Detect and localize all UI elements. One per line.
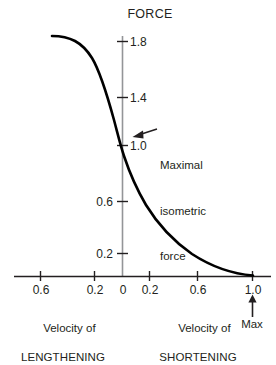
caption-lengthening-line1: Velocity of (43, 322, 95, 334)
x-axis-caption-shortening: Velocity of SHORTENING (128, 307, 268, 365)
y-tick-label-1-8: 1.8 (130, 36, 147, 48)
annotation-line-1: Maximal (160, 158, 206, 173)
x-tick-label-shortening-1-0: 1.0 (233, 284, 273, 296)
y-tick-label-1-4: 1.4 (130, 92, 147, 104)
x-axis-caption-lengthening: Velocity of LENGTHENING (0, 307, 133, 365)
caption-lengthening-line2: LENGTHENING (0, 350, 133, 364)
force-velocity-curve (52, 36, 253, 276)
y-tick-label-0-2: 0.2 (75, 248, 113, 260)
caption-shortening-line1: Velocity of (178, 322, 230, 334)
annotation-line-2: isometric (160, 204, 206, 219)
y-tick-label-0-6: 0.6 (75, 196, 113, 208)
x-tick-label-lengthening-0-6: 0.6 (21, 284, 61, 296)
caption-shortening-line2: SHORTENING (128, 350, 268, 364)
annotation-arrow-icon (133, 129, 158, 139)
maximal-isometric-force-annotation: Maximal isometric force (160, 128, 206, 295)
y-tick-label-1-0: 1.0 (130, 140, 147, 152)
annotation-line-3: force (160, 249, 206, 264)
max-velocity-label: Max (232, 319, 272, 331)
